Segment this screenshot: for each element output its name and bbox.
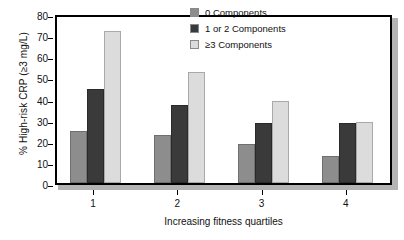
- y-tick-mark: [48, 38, 53, 39]
- legend-label: 1 or 2 Components: [205, 23, 286, 34]
- legend-item: 0 Components: [190, 5, 286, 19]
- y-tick-label: 0: [22, 181, 48, 191]
- bar[interactable]: [70, 131, 87, 183]
- y-tick-mark: [48, 80, 53, 81]
- y-tick-mark: [48, 186, 53, 187]
- bar[interactable]: [188, 72, 205, 183]
- bar[interactable]: [322, 156, 339, 183]
- y-tick-mark: [48, 123, 53, 124]
- legend-label: ≥3 Components: [205, 39, 272, 50]
- bar[interactable]: [104, 31, 121, 183]
- y-tick-label: 30: [22, 118, 48, 128]
- legend-swatch: [190, 8, 199, 17]
- y-tick-mark: [48, 17, 53, 18]
- chart-figure: % High-risk CRP (≥3 mg/L) 80706050403020…: [0, 0, 404, 240]
- y-tick-label: 10: [22, 160, 48, 170]
- bar-group: [70, 17, 121, 183]
- bar[interactable]: [238, 144, 255, 183]
- chart-legend: 0 Components1 or 2 Components≥3 Componen…: [190, 5, 286, 53]
- legend-swatch: [190, 24, 199, 33]
- bar[interactable]: [154, 135, 171, 183]
- y-tick-label: 50: [22, 75, 48, 85]
- legend-item: 1 or 2 Components: [190, 21, 286, 35]
- y-tick-label: 70: [22, 33, 48, 43]
- y-tick-mark: [48, 59, 53, 60]
- y-tick-mark: [48, 165, 53, 166]
- bar[interactable]: [356, 122, 373, 183]
- y-tick-label: 60: [22, 54, 48, 64]
- x-tick-mark: [262, 190, 263, 195]
- bar[interactable]: [255, 123, 272, 183]
- legend-swatch: [190, 40, 199, 49]
- x-tick-mark: [93, 190, 94, 195]
- bar[interactable]: [339, 123, 356, 183]
- bar[interactable]: [87, 89, 104, 183]
- x-tick-label: 4: [331, 198, 361, 209]
- bar[interactable]: [272, 101, 289, 183]
- x-tick-mark: [346, 190, 347, 195]
- legend-label: 0 Components: [205, 7, 267, 18]
- x-tick-label: 2: [162, 198, 192, 209]
- y-tick-label: 40: [22, 97, 48, 107]
- y-tick-label: 80: [22, 12, 48, 22]
- y-tick-mark: [48, 144, 53, 145]
- x-tick-label: 3: [247, 198, 277, 209]
- x-tick-mark: [177, 190, 178, 195]
- legend-item: ≥3 Components: [190, 37, 286, 51]
- y-tick-label: 20: [22, 139, 48, 149]
- x-tick-label: 1: [78, 198, 108, 209]
- y-axis-tick-labels: 80706050403020100: [20, 0, 48, 240]
- bar-group: [322, 17, 373, 183]
- bar[interactable]: [171, 105, 188, 183]
- y-tick-mark: [48, 102, 53, 103]
- x-axis-label: Increasing fitness quartiles: [55, 216, 392, 227]
